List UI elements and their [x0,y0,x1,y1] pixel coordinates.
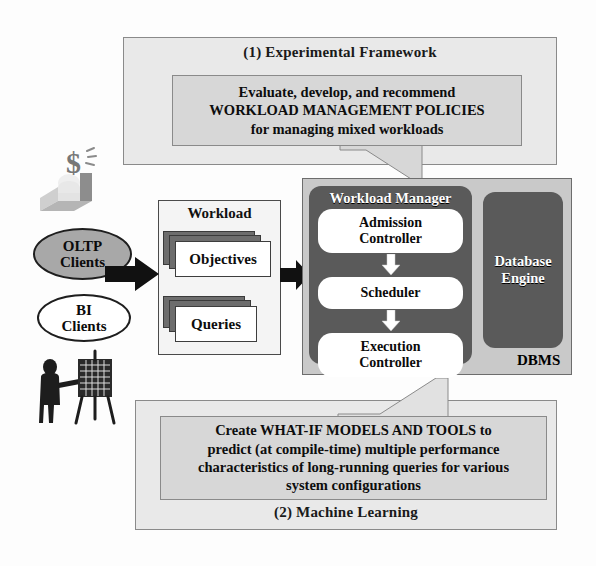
objectives-document-stack: Objectives [163,231,281,279]
dbms-label: DBMS [517,352,560,369]
queries-sheet-front: Queries [175,306,257,342]
machine-learning-label: (2) Machine Learning [136,504,556,521]
scheduler-line-1: Scheduler [361,285,421,301]
scheduler-box: Scheduler [318,277,463,309]
money-user-icon: $ [28,143,106,215]
execution-controller-box: Execution Controller [318,333,463,377]
execution-controller-line-1: Execution [361,339,421,355]
bi-clients-node: BI Clients [37,294,131,342]
experimental-framework-callout: Evaluate, develop, and recommend WORKLOA… [172,75,522,146]
top-callout-line-1: Evaluate, develop, and recommend [239,83,456,102]
oltp-clients-line-1: OLTP [63,238,102,255]
bottom-callout-line-4: system configurations [286,476,421,494]
presenter-easel-icon [30,345,120,427]
objectives-label: Objectives [189,251,256,268]
queries-document-stack: Queries [163,296,281,344]
top-callout-line-2: WORKLOAD MANAGEMENT POLICIES [209,101,484,120]
admission-controller-box: Admission Controller [318,209,463,253]
admission-to-scheduler-arrow-icon [381,254,401,276]
database-engine-line-2: Engine [501,270,545,287]
database-engine-line-1: Database [494,253,551,270]
queries-label: Queries [191,316,241,333]
bi-clients-line-2: Clients [62,318,107,335]
scheduler-to-execution-arrow-icon [381,310,401,332]
database-engine-box: Database Engine [483,192,563,348]
machine-learning-callout: Create WHAT-IF MODELS AND TOOLS to predi… [160,416,547,500]
bottom-callout-line-1: Create WHAT-IF MODELS AND TOOLS to [215,421,492,439]
admission-controller-line-2: Controller [359,231,422,247]
bottom-callout-line-3: characteristics of long-running queries … [198,458,509,476]
admission-controller-line-1: Admission [359,215,422,231]
execution-controller-line-2: Controller [359,355,422,371]
svg-text:$: $ [66,146,81,179]
bottom-callout-line-2: predict (at compile-time) multiple perfo… [207,440,499,458]
oltp-clients-line-2: Clients [60,254,105,271]
experimental-framework-label: (1) Experimental Framework [124,44,556,61]
workload-manager-title: Workload Manager [309,190,472,207]
workload-title: Workload [159,205,280,222]
bi-clients-line-1: BI [76,302,92,319]
figure-canvas: (1) Experimental Framework Evaluate, dev… [0,0,596,566]
objectives-sheet-front: Objectives [175,241,271,277]
clients-to-workload-arrow-icon [105,254,161,294]
top-callout-line-3: for managing mixed workloads [251,120,444,139]
